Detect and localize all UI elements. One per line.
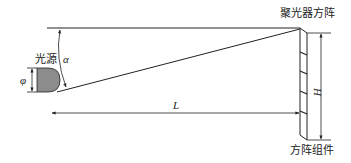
optical-diagram: φ 光源 α H L 聚光器方阵 方阵组件 xyxy=(0,0,351,163)
array-panel xyxy=(300,28,307,140)
concentrator-array-label: 聚光器方阵 xyxy=(280,6,335,20)
light-source-shape xyxy=(37,68,60,92)
h-label: H xyxy=(312,87,324,97)
alpha-label: α xyxy=(63,53,69,65)
array-module-label: 方阵组件 xyxy=(290,143,334,157)
diagonal-ray xyxy=(57,29,300,92)
l-label: L xyxy=(172,99,179,111)
phi-label: φ xyxy=(20,74,26,86)
light-source-label: 光源 xyxy=(35,52,57,66)
